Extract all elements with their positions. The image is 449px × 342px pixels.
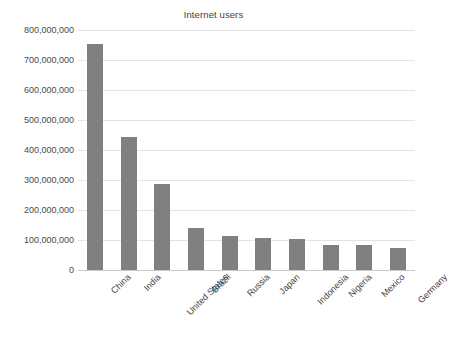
- x-tick-label: Russia: [245, 272, 272, 299]
- bar[interactable]: [222, 236, 238, 271]
- gridline: [78, 60, 415, 61]
- y-axis: 0100,000,000200,000,000300,000,000400,00…: [0, 0, 74, 342]
- x-axis: ChinaIndiaUnited StatesBrazilRussiaJapan…: [78, 272, 415, 342]
- x-tick-label: China: [109, 272, 133, 296]
- y-tick-label: 500,000,000: [0, 115, 74, 125]
- x-tick-label: Germany: [416, 272, 449, 305]
- y-tick-label: 300,000,000: [0, 175, 74, 185]
- bar[interactable]: [87, 44, 103, 270]
- bar[interactable]: [356, 245, 372, 270]
- y-tick-label: 600,000,000: [0, 85, 74, 95]
- plot-area: [78, 30, 415, 270]
- x-tick-label: Nigeria: [346, 272, 373, 299]
- x-tick-label: India: [141, 272, 162, 293]
- bar[interactable]: [255, 238, 271, 270]
- y-tick-label: 0: [0, 265, 74, 275]
- bar[interactable]: [121, 137, 137, 270]
- axis-baseline: [78, 270, 415, 271]
- x-tick-label: Mexico: [380, 272, 407, 299]
- y-tick-label: 800,000,000: [0, 25, 74, 35]
- y-tick-label: 100,000,000: [0, 235, 74, 245]
- y-tick-label: 200,000,000: [0, 205, 74, 215]
- y-tick-label: 700,000,000: [0, 55, 74, 65]
- bar[interactable]: [289, 239, 305, 270]
- gridline: [78, 30, 415, 31]
- x-tick-label: Japan: [278, 272, 302, 296]
- bar[interactable]: [188, 228, 204, 270]
- bar[interactable]: [154, 184, 170, 270]
- bar[interactable]: [323, 245, 339, 271]
- y-tick-label: 400,000,000: [0, 145, 74, 155]
- bar[interactable]: [390, 248, 406, 270]
- gridline: [78, 120, 415, 121]
- x-tick-label: Brazil: [210, 272, 233, 295]
- x-tick-label: Indonesia: [315, 272, 350, 307]
- gridline: [78, 90, 415, 91]
